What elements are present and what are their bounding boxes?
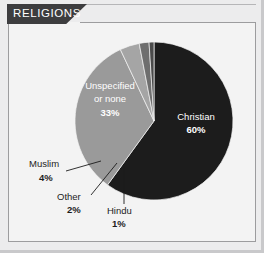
religions-chart-card: RELIGIONS Christian 60% Unspecified or n… <box>0 0 264 253</box>
slice-value-muslim: 4% <box>39 172 53 183</box>
header-divider-rule <box>80 4 256 5</box>
slice-value-hindu: 1% <box>112 218 126 229</box>
slice-label-unspecified-line1: Unspecified <box>85 80 135 91</box>
slice-label-hindu: Hindu <box>107 205 132 216</box>
slice-label-unspecified-line2: or none <box>94 93 126 104</box>
page-title: RELIGIONS <box>13 7 81 19</box>
slice-value-other: 2% <box>67 204 81 215</box>
slice-value-christian: 60% <box>186 124 206 135</box>
slice-label-christian: Christian <box>177 111 215 122</box>
slice-label-other: Other <box>57 191 81 202</box>
slice-label-muslim: Muslim <box>29 158 59 169</box>
religions-pie-chart: Christian 60% Unspecified or none 33% Mu… <box>0 0 264 253</box>
slice-value-unspecified: 33% <box>100 107 120 118</box>
